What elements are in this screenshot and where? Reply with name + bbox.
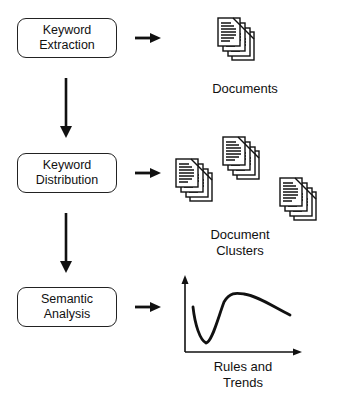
- output-label-documents: Documents: [200, 81, 290, 97]
- output-label-rules-and-trends: Rules and Trends: [198, 359, 288, 391]
- flow-arrows: [0, 0, 341, 401]
- right-arrow-icon: [135, 33, 161, 43]
- down-arrow-icon: [60, 213, 72, 273]
- label-line2: Clusters: [200, 243, 280, 259]
- right-arrow-icon: [135, 168, 161, 178]
- label-line1: Rules and: [198, 359, 288, 375]
- label-line1: Document: [200, 227, 280, 243]
- right-arrow-icon: [135, 302, 161, 312]
- trend-chart-icon: [182, 275, 303, 356]
- output-label-document-clusters: Document Clusters: [200, 227, 280, 259]
- label-line2: Trends: [198, 375, 288, 391]
- document-clusters-icon: [176, 137, 316, 220]
- document-stack-icon: [218, 18, 254, 60]
- down-arrow-icon: [60, 78, 72, 138]
